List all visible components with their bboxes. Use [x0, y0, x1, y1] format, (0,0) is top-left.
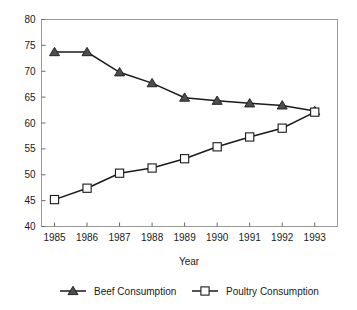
data-point — [181, 155, 189, 163]
x-tick-label: 1991 — [239, 232, 262, 243]
data-point — [213, 143, 221, 151]
x-axis-title: Year — [179, 256, 200, 267]
data-point — [246, 133, 254, 141]
y-tick-label: 55 — [24, 143, 36, 154]
x-axis-tick-labels: 198519861987198819891990199119921993 — [43, 232, 326, 243]
y-tick-label: 45 — [24, 195, 36, 206]
data-point — [311, 108, 319, 116]
data-point — [278, 124, 286, 132]
data-point — [83, 184, 91, 192]
y-tick-label: 50 — [24, 169, 36, 180]
data-point — [50, 195, 58, 203]
x-tick-label: 1992 — [271, 232, 294, 243]
data-point — [115, 169, 123, 177]
y-tick-label: 40 — [24, 221, 36, 232]
x-tick-label: 1985 — [43, 232, 66, 243]
chart-container: 404550556065707580 198519861987198819891… — [0, 0, 357, 310]
x-tick-label: 1988 — [141, 232, 164, 243]
y-tick-label: 65 — [24, 92, 36, 103]
x-tick-label: 1987 — [108, 232, 131, 243]
y-tick-label: 75 — [24, 40, 36, 51]
y-tick-label: 60 — [24, 118, 36, 129]
line-chart: 404550556065707580 198519861987198819891… — [0, 0, 357, 310]
data-point — [148, 164, 156, 172]
x-tick-label: 1986 — [76, 232, 99, 243]
y-axis-tick-labels: 404550556065707580 — [24, 14, 36, 232]
legend-marker — [201, 287, 209, 295]
legend-label: Beef Consumption — [94, 286, 176, 297]
x-tick-label: 1989 — [173, 232, 196, 243]
x-tick-label: 1990 — [206, 232, 229, 243]
y-tick-label: 70 — [24, 66, 36, 77]
legend-label: Poultry Consumption — [226, 286, 319, 297]
y-tick-label: 80 — [24, 14, 36, 25]
x-tick-label: 1993 — [304, 232, 327, 243]
